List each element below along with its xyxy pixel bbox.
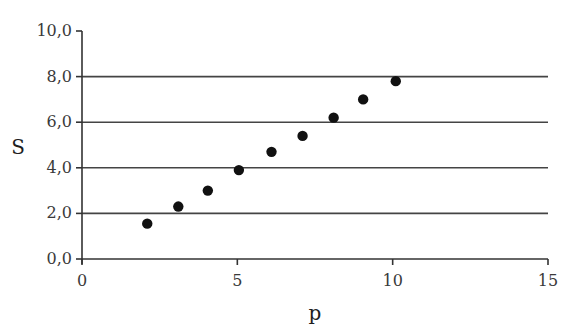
- scatter-chart: 0,02,04,06,08,010,0 051015 p S: [0, 0, 571, 330]
- data-points: [142, 76, 401, 229]
- y-tick-label: 10,0: [36, 21, 72, 40]
- y-axis-ticks: 0,02,04,06,08,010,0: [36, 21, 82, 268]
- data-point: [266, 147, 276, 157]
- data-point: [328, 112, 338, 122]
- x-tick-label: 10: [382, 271, 402, 290]
- y-tick-label: 4,0: [47, 158, 72, 177]
- x-tick-label: 5: [232, 271, 242, 290]
- y-tick-label: 0,0: [47, 249, 72, 268]
- grid-lines: [82, 77, 548, 214]
- y-axis-label: S: [11, 135, 25, 159]
- x-axis-label: p: [309, 301, 322, 325]
- data-point: [142, 218, 152, 228]
- axes: [82, 31, 548, 264]
- x-tick-label: 0: [77, 271, 87, 290]
- data-point: [297, 131, 307, 141]
- data-point: [391, 76, 401, 86]
- y-tick-label: 6,0: [47, 112, 72, 131]
- x-tick-label: 15: [538, 271, 558, 290]
- data-point: [173, 201, 183, 211]
- y-tick-label: 2,0: [47, 203, 72, 222]
- data-point: [203, 185, 213, 195]
- y-tick-label: 8,0: [47, 67, 72, 86]
- x-axis-ticks: 051015: [77, 259, 558, 290]
- data-point: [234, 165, 244, 175]
- data-point: [358, 94, 368, 104]
